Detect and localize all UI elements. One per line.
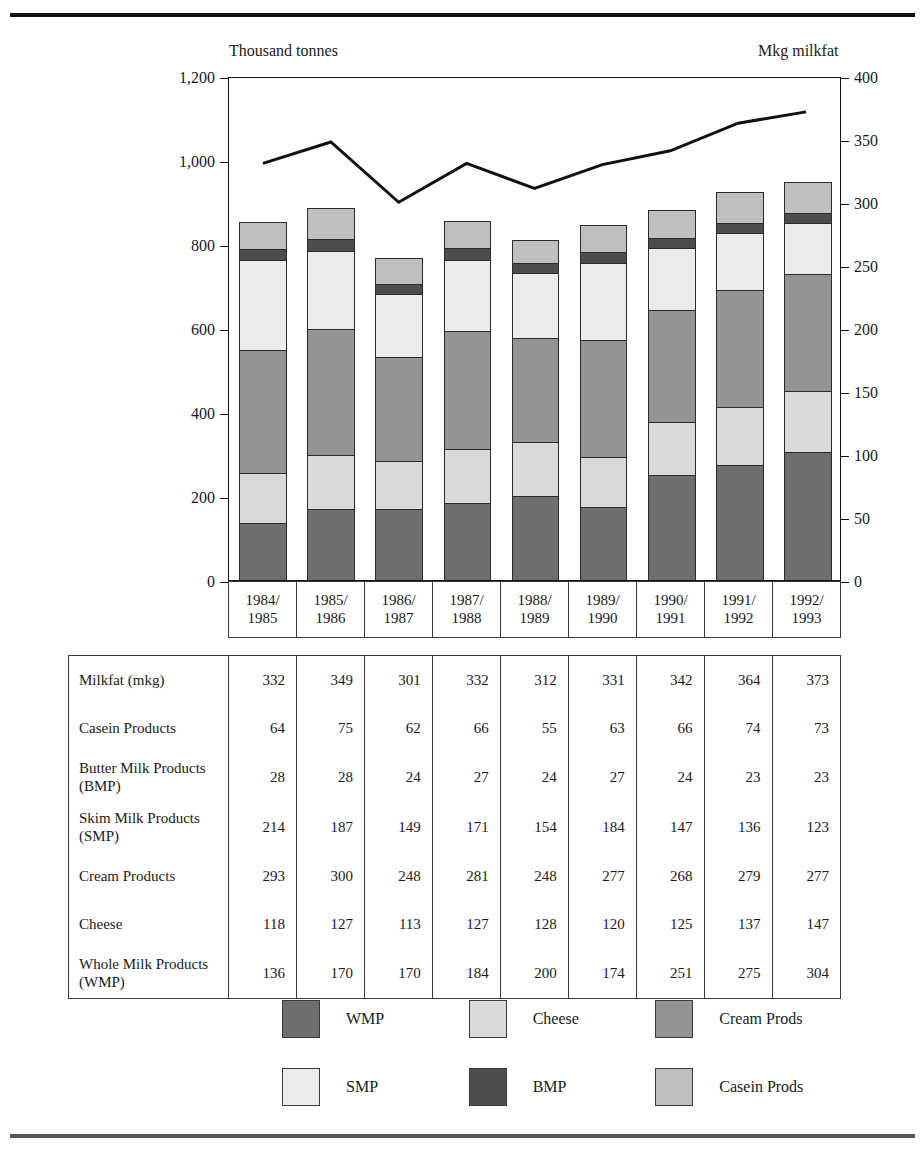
legend-swatch-bmp [469, 1068, 507, 1106]
x-axis-category-line: 1989 [520, 610, 550, 628]
table-row: Cream Products29330024828124827726827927… [69, 852, 840, 900]
legend-swatch-cheese [469, 1000, 507, 1038]
right-tick-mark [840, 141, 849, 142]
x-axis-category-cell: 1992/1993 [773, 582, 840, 637]
x-axis-category-cell: 1984/1985 [229, 582, 297, 637]
legend-item: Cheese [469, 1000, 656, 1038]
table-cell-value: 28 [296, 752, 364, 802]
right-tick-mark [840, 582, 849, 583]
x-axis-category-line: 1987 [384, 610, 414, 628]
x-axis-category-line: 1984/ [245, 592, 279, 610]
figure-page: Thousand tonnes Mkg milkfat 020040060080… [0, 0, 924, 1173]
table-cell-value: 55 [500, 704, 568, 752]
table-row-label-line: Butter Milk Products [79, 759, 228, 777]
x-axis-category-line: 1990/ [653, 592, 687, 610]
left-tick-label: 400 [191, 406, 215, 422]
table-row-label-line: (BMP) [79, 777, 228, 795]
x-axis-category-line: 1986/ [381, 592, 415, 610]
right-tick-mark [840, 393, 849, 394]
x-axis-category-line: 1991/ [721, 592, 755, 610]
left-axis-caption: Thousand tonnes [229, 42, 338, 60]
legend-swatch-cream-prods [655, 1000, 693, 1038]
table-row-label-line: (WMP) [79, 973, 228, 991]
x-axis-category-cell: 1985/1986 [297, 582, 365, 637]
left-tick-label: 200 [191, 490, 215, 506]
x-axis-category-band: 1984/19851985/19861986/19871987/19881988… [228, 581, 841, 638]
table-row-label-line: Whole Milk Products [79, 955, 228, 973]
right-tick-mark [840, 330, 849, 331]
right-tick-label: 250 [854, 259, 878, 275]
left-tick-mark [220, 498, 229, 499]
x-axis-category-cell: 1990/1991 [637, 582, 705, 637]
data-table: Milkfat (mkg)332349301332312331342364373… [68, 655, 841, 999]
table-cell-value: 63 [568, 704, 636, 752]
left-tick-label: 0 [207, 574, 215, 590]
table-cell-value: 293 [229, 852, 297, 900]
table-cell-value: 304 [772, 948, 840, 998]
table-cell-value: 364 [704, 656, 772, 704]
table-row-label-line: Casein Products [79, 719, 228, 737]
legend-label: Cheese [533, 1010, 579, 1028]
table-cell-value: 251 [636, 948, 704, 998]
table-row: Milkfat (mkg)332349301332312331342364373 [69, 656, 840, 704]
table-row-label: Skim Milk Products(SMP) [69, 802, 229, 852]
left-tick-mark [220, 414, 229, 415]
x-axis-category-cell: 1987/1988 [433, 582, 501, 637]
table-cell-value: 332 [229, 656, 297, 704]
table-cell-value: 73 [772, 704, 840, 752]
table-cell-value: 331 [568, 656, 636, 704]
x-axis-category-line: 1988/ [517, 592, 551, 610]
left-tick-label: 600 [191, 322, 215, 338]
table-cell-value: 312 [500, 656, 568, 704]
table-row-label-line: (SMP) [79, 827, 228, 845]
table-cell-value: 200 [500, 948, 568, 998]
table-row-label: Cream Products [69, 852, 229, 900]
table-row-label: Cheese [69, 900, 229, 948]
table-cell-value: 349 [296, 656, 364, 704]
right-axis-caption: Mkg milkfat [758, 42, 838, 60]
table-cell-value: 342 [636, 656, 704, 704]
table-cell-value: 137 [704, 900, 772, 948]
table-cell-value: 170 [296, 948, 364, 998]
table-cell-value: 147 [772, 900, 840, 948]
table-cell-value: 66 [432, 704, 500, 752]
right-tick-label: 400 [854, 70, 878, 86]
table-cell-value: 24 [500, 752, 568, 802]
right-tick-label: 200 [854, 322, 878, 338]
table-cell-value: 275 [704, 948, 772, 998]
right-tick-label: 50 [854, 511, 870, 527]
table-cell-value: 127 [432, 900, 500, 948]
legend-swatch-wmp [282, 1000, 320, 1038]
table-cell-value: 170 [364, 948, 432, 998]
legend-item: SMP [282, 1068, 469, 1106]
table-row: Casein Products647562665563667473 [69, 704, 840, 752]
left-tick-mark [220, 78, 229, 79]
table-row: Butter Milk Products(BMP)282824272427242… [69, 752, 840, 802]
legend-item: BMP [469, 1068, 656, 1106]
table-row-label: Butter Milk Products(BMP) [69, 752, 229, 802]
x-axis-category-cell: 1989/1990 [569, 582, 637, 637]
table-row: Cheese118127113127128120125137147 [69, 900, 840, 948]
table-cell-value: 64 [229, 704, 297, 752]
right-tick-label: 150 [854, 385, 878, 401]
table-cell-value: 147 [636, 802, 704, 852]
table-row: Whole Milk Products(WMP)1361701701842001… [69, 948, 840, 998]
table-cell-value: 174 [568, 948, 636, 998]
table-cell-value: 281 [432, 852, 500, 900]
x-axis-category-line: 1988 [452, 610, 482, 628]
table-cell-value: 136 [704, 802, 772, 852]
table-cell-value: 23 [704, 752, 772, 802]
legend-label: SMP [346, 1078, 378, 1096]
table-cell-value: 113 [364, 900, 432, 948]
right-tick-label: 300 [854, 196, 878, 212]
right-tick-mark [840, 519, 849, 520]
table-cell-value: 27 [568, 752, 636, 802]
chart-plot-area: 02004006008001,0001,200 0501001502002503… [228, 77, 841, 581]
table-cell-value: 62 [364, 704, 432, 752]
left-tick-mark [220, 246, 229, 247]
table-cell-value: 214 [229, 802, 297, 852]
table-cell-value: 184 [432, 948, 500, 998]
left-tick-label: 1,000 [179, 154, 215, 170]
table-row-label-line: Skim Milk Products [79, 809, 228, 827]
table-cell-value: 125 [636, 900, 704, 948]
